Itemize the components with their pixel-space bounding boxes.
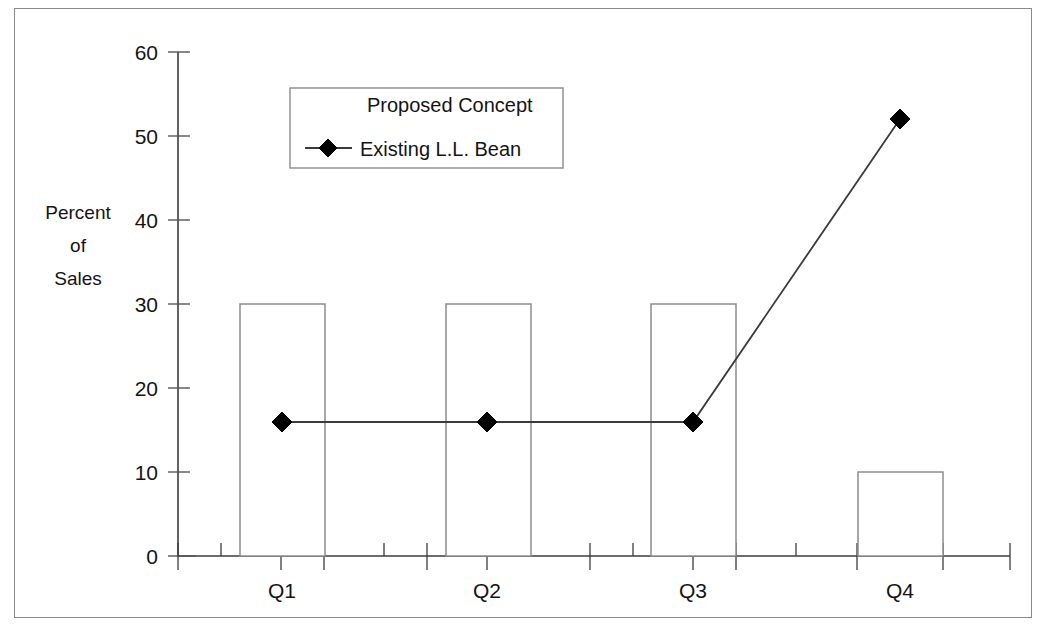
y-axis-title: Percent of Sales [45,202,111,289]
y-tick-label-40: 40 [135,209,158,232]
legend-label-proposed-concept: Proposed Concept [367,94,533,116]
y-axis-title-line-1: Percent [45,202,111,223]
x-label-q3: Q3 [679,579,707,602]
y-axis-title-line-3: Sales [54,268,102,289]
chart-legend: Proposed Concept Existing L.L. Bean [290,88,563,168]
y-tick-label-20: 20 [135,377,158,400]
y-tick-label-50: 50 [135,125,158,148]
x-label-q2: Q2 [473,579,501,602]
x-label-q1: Q1 [268,579,296,602]
y-tick-label-30: 30 [135,293,158,316]
x-label-q4: Q4 [886,579,914,602]
y-axis-ticks [168,52,196,556]
chart-figure: 60 50 40 30 20 10 0 Percent of Sales [0,0,1050,635]
y-axis-tick-labels: 60 50 40 30 20 10 0 [135,41,158,568]
y-tick-label-10: 10 [135,461,158,484]
y-axis-title-line-2: of [70,235,87,256]
x-axis-category-labels: Q1 Q2 Q3 Q4 [268,579,914,602]
y-tick-label-60: 60 [135,41,158,64]
bar-q4 [858,472,943,556]
chart-plot-area: 60 50 40 30 20 10 0 Percent of Sales [0,0,1050,635]
line-marker-q4 [890,109,910,129]
legend-label-existing-ll-bean: Existing L.L. Bean [360,138,521,160]
y-tick-label-0: 0 [146,545,158,568]
bar-series-proposed-concept [240,304,943,556]
